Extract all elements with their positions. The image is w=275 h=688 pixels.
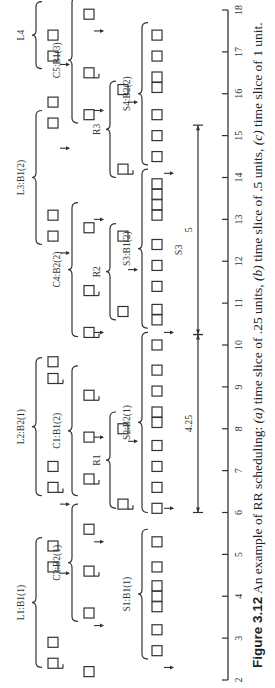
time-slice-box: [152, 461, 162, 471]
time-slice-box: [84, 327, 94, 337]
group-label: S3:B1(2): [122, 231, 133, 266]
time-slice-box: [152, 72, 162, 82]
group-brace: [106, 81, 116, 177]
caption-part-a-label: (a): [250, 408, 265, 424]
group-brace: [32, 2, 42, 69]
caption-part-c-label: (c): [250, 130, 265, 145]
time-slice-box: [152, 625, 162, 635]
time-slice-box: [152, 51, 162, 61]
time-axis: 23456789101112131415161718: [222, 5, 244, 683]
measure-label: 4.25: [183, 415, 194, 433]
time-slice-box: [152, 591, 162, 601]
time-slice-box: [152, 315, 162, 325]
time-slice-box: [118, 307, 128, 317]
group-brace: [32, 358, 42, 496]
schedule-groups: L1:B1(1)L2:B2(1)L3:B1(2)L4C2:B2(1)C1:B1(…: [16, 0, 174, 677]
time-slice-box: [152, 562, 162, 572]
time-slice-box: [48, 637, 58, 647]
arrival-arrowhead: [170, 665, 174, 669]
arrival-arrowhead: [100, 109, 104, 113]
schedule-group: C5:B1(3): [52, 0, 104, 123]
group-brace: [106, 224, 116, 320]
time-slice-box: [152, 110, 162, 120]
group-brace: [68, 0, 78, 123]
measure-arrowhead: [196, 330, 200, 335]
group-label: R2: [92, 266, 102, 277]
axis-tick-label: 17: [233, 47, 244, 57]
time-slice-box: [84, 68, 94, 78]
schedule-group: S1:B1(1): [122, 529, 174, 669]
time-slice-box: [84, 524, 94, 534]
time-slice-box: [118, 499, 128, 509]
axis-tick-label: 4: [233, 594, 244, 599]
time-slice-box: [152, 152, 162, 162]
group-brace: [68, 366, 78, 496]
arrival-arrowhead: [66, 571, 70, 575]
group-label: R1: [92, 454, 102, 465]
axis-tick-label: 16: [233, 89, 244, 99]
measure-arrowhead: [196, 335, 200, 340]
group-label: S1:B1(1): [122, 577, 133, 612]
time-slice-box: [152, 82, 162, 92]
group-label: S2:B2(1): [122, 405, 133, 440]
schedule-group: S3:B1(2): [122, 169, 174, 328]
group-brace: [106, 412, 116, 508]
axis-tick-label: 12: [233, 256, 244, 266]
time-slice-box: [152, 210, 162, 220]
arrival-arrowhead: [170, 506, 174, 510]
arrival-arrowhead: [134, 268, 138, 272]
time-slice-box: [152, 189, 162, 199]
rr-scheduling-diagram: 23456789101112131415161718 L1:B1(1)L2:B2…: [0, 0, 275, 688]
time-slice-box: [152, 646, 162, 656]
time-slice-box: [152, 503, 162, 513]
group-label: R3: [92, 124, 102, 135]
time-slice-box: [48, 118, 58, 128]
axis-tick-label: 7: [233, 468, 244, 473]
arrival-arrowhead: [100, 624, 104, 628]
time-slice-box: [84, 608, 94, 618]
group-brace: [138, 529, 148, 659]
caption-part-c-text: time slice of 1 unit.: [250, 22, 265, 130]
schedule-group: S2:B2(1): [122, 330, 174, 513]
time-slice-box: [84, 390, 94, 400]
time-slice-box: [84, 223, 94, 233]
time-slice-box: [84, 566, 94, 576]
time-slice-box: [48, 97, 58, 107]
schedule-group: S4:B2(2): [122, 23, 162, 165]
time-slice-box: [48, 482, 58, 492]
time-slice-box: [48, 658, 58, 668]
measure-arrowhead: [196, 508, 200, 513]
arrival-arrowhead: [100, 540, 104, 544]
group-label: C5:B1(3): [52, 42, 63, 78]
time-slice-box: [84, 9, 94, 19]
axis-tick-label: 3: [233, 636, 244, 641]
axis-tick-label: 18: [233, 5, 244, 15]
group-label: C4:B2(2): [52, 252, 63, 288]
time-slice-box: [48, 374, 58, 384]
caption-part-b-text: time slice of .5 units,: [250, 145, 265, 265]
axis-tick-label: 6: [233, 510, 244, 515]
time-slice-box: [152, 304, 162, 314]
schedule-group: C2:B2(1): [52, 504, 104, 627]
figure-caption: Figure 3.12 An example of RR scheduling:…: [250, 0, 266, 668]
arrival-arrowhead: [134, 100, 138, 104]
axis-tick-label: 8: [233, 426, 244, 431]
group-brace: [138, 332, 148, 512]
time-slice-box: [152, 179, 162, 189]
time-slice-box: [152, 441, 162, 451]
time-slice-box: [152, 281, 162, 291]
time-slice-box: [118, 164, 128, 174]
schedule-group: C1:B1(2): [52, 366, 104, 496]
axis-tick-label: 5: [233, 552, 244, 557]
arrival-arrowhead: [66, 146, 70, 150]
time-slice-box: [152, 417, 162, 427]
rotated-figure-page: 23456789101112131415161718 L1:B1(1)L2:B2…: [0, 0, 275, 688]
measure-label: 5: [183, 227, 194, 232]
group-label: C2:B2(1): [52, 545, 63, 581]
group-brace: [68, 203, 78, 337]
group-label: L1:B1(1): [16, 585, 27, 620]
arrival-arrowhead: [66, 62, 70, 66]
axis-tick-label: 11: [233, 298, 244, 308]
time-slice-box: [152, 131, 162, 141]
time-slice-box: [84, 667, 94, 677]
